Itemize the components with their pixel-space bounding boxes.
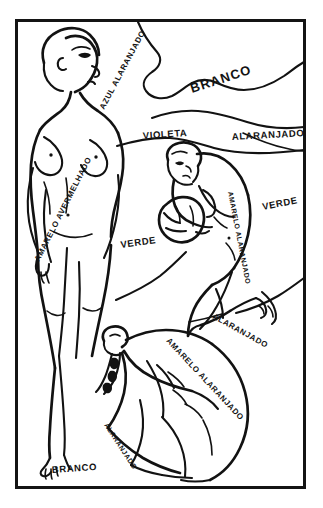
artboard: AZUL ALARANJADO BRANCO VIOLETA ALARANJAD…: [0, 0, 323, 508]
standing-figure-toe-1: [45, 469, 46, 479]
standing-figure-navel: [66, 213, 69, 216]
standing-figure-nipple-right: [94, 155, 97, 158]
artwork-page: AZUL ALARANJADO BRANCO VIOLETA ALARANJAD…: [0, 0, 323, 508]
standing-figure-nipple-left: [49, 153, 52, 156]
drawing-canvas: AZUL ALARANJADO BRANCO VIOLETA ALARANJAD…: [0, 0, 323, 508]
crouching-figure-mark: [228, 237, 231, 240]
